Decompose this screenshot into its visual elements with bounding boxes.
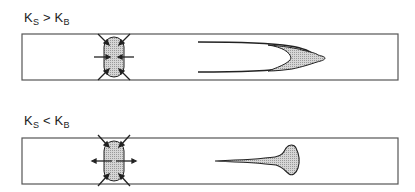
process-zone <box>268 45 325 71</box>
channel-box <box>22 34 398 80</box>
diagram-panel-bottom <box>0 100 415 192</box>
crack-tail-bulb <box>215 145 299 175</box>
diagram-panel-top <box>0 0 415 100</box>
diagram-bottom-svg <box>0 100 415 192</box>
diagram-top-svg <box>0 0 415 100</box>
channel-box <box>22 138 398 184</box>
